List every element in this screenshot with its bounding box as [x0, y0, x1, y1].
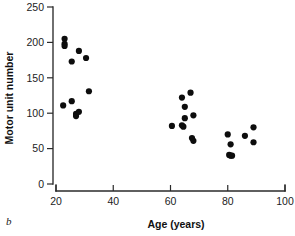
data-point	[179, 95, 185, 101]
data-point	[76, 109, 82, 115]
y-tick-label: 50	[32, 142, 44, 154]
data-point	[190, 112, 196, 118]
data-points-group	[60, 36, 257, 159]
scatter-plot-figure: 050100150200250 20406080100 Age (years) …	[0, 0, 295, 236]
x-tick-label: 60	[165, 195, 177, 207]
y-tick-label: 200	[26, 36, 44, 48]
data-point	[229, 153, 235, 159]
y-tick-label: 100	[26, 107, 44, 119]
data-point	[169, 123, 175, 129]
data-point	[182, 115, 188, 121]
panel-letter: b	[6, 215, 12, 227]
plot-canvas: 050100150200250 20406080100 Age (years) …	[0, 0, 295, 236]
y-tick-label: 0	[38, 178, 44, 190]
y-axis-title: Motor unit number	[3, 52, 15, 145]
y-tick-label: 250	[26, 1, 44, 13]
x-axis-title: Age (years)	[147, 218, 204, 230]
data-point	[225, 131, 231, 137]
data-point	[190, 138, 196, 144]
y-axis-ticks: 050100150200250	[26, 1, 53, 190]
x-axis-ticks: 20406080100	[50, 185, 294, 207]
data-point	[83, 55, 89, 61]
data-point	[61, 43, 67, 49]
data-point	[187, 90, 193, 96]
x-tick-label: 40	[107, 195, 119, 207]
data-point	[180, 124, 186, 130]
x-tick-label: 20	[50, 195, 62, 207]
data-point	[69, 58, 75, 64]
data-point	[69, 98, 75, 104]
data-point	[182, 104, 188, 110]
data-point	[60, 102, 66, 108]
data-point	[228, 141, 234, 147]
data-point	[76, 48, 82, 54]
data-point	[250, 139, 256, 145]
data-point	[242, 133, 248, 139]
data-point	[86, 88, 92, 94]
x-tick-label: 100	[276, 195, 294, 207]
y-tick-label: 150	[26, 72, 44, 84]
x-tick-label: 80	[222, 195, 234, 207]
data-point	[250, 124, 256, 130]
